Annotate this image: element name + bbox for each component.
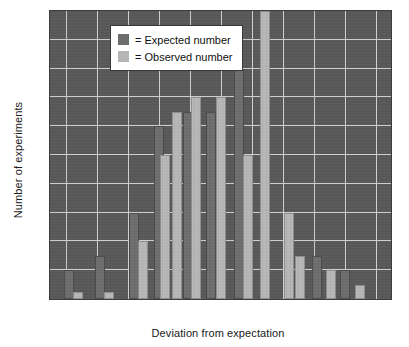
- bar-observed: [355, 285, 365, 299]
- legend-item-observed: = Observed number: [118, 48, 233, 65]
- x-tick-mark: [376, 299, 377, 300]
- x-tick-mark: [128, 299, 129, 300]
- y-tick-mark: [49, 125, 50, 126]
- bar-expected: [340, 270, 350, 299]
- bar-observed: [260, 11, 270, 299]
- bar-observed: [73, 292, 83, 299]
- legend-label-observed: = Observed number: [135, 51, 233, 63]
- x-tick-mark: [345, 299, 346, 300]
- y-tick-mark: [49, 298, 50, 299]
- x-tick-mark: [97, 299, 98, 300]
- x-tick-mark: [221, 299, 222, 300]
- legend-label-expected: = Expected number: [135, 34, 231, 46]
- chart-legend: = Expected number = Observed number: [110, 25, 243, 71]
- bar-expected: [312, 256, 322, 299]
- bar-observed: [191, 97, 201, 299]
- y-tick-mark: [49, 212, 50, 213]
- y-tick-mark: [49, 68, 50, 69]
- y-tick-mark: [49, 183, 50, 184]
- y-tick-mark: [49, 39, 50, 40]
- y-axis-title: Number of experiments: [12, 60, 24, 260]
- bar-observed: [326, 270, 336, 299]
- y-tick-mark: [49, 269, 50, 270]
- bar-observed: [138, 241, 148, 299]
- gridline-vertical: [66, 11, 67, 299]
- bar-observed: [284, 213, 294, 299]
- y-tick-mark: [49, 10, 50, 11]
- y-tick-mark: [49, 154, 50, 155]
- y-tick-mark: [49, 240, 50, 241]
- bar-observed: [295, 256, 305, 299]
- light-swatch-icon: [118, 51, 129, 62]
- x-tick-mark: [159, 299, 160, 300]
- plot-area: 02468101214161820 0−2.5−2.0−1.5−1.0−0.50…: [49, 10, 392, 300]
- x-tick-mark: [252, 299, 253, 300]
- gridline-vertical: [345, 11, 346, 299]
- x-tick-mark: [190, 299, 191, 300]
- x-tick-mark: [314, 299, 315, 300]
- bar-observed: [160, 155, 170, 299]
- chart-figure: Number of experiments Deviation from exp…: [0, 0, 409, 347]
- y-tick-mark: [49, 96, 50, 97]
- legend-item-expected: = Expected number: [118, 31, 233, 48]
- gridline-vertical: [376, 11, 377, 299]
- x-tick-mark: [283, 299, 284, 300]
- bar-observed: [216, 97, 226, 299]
- bar-observed: [172, 112, 182, 299]
- bar-observed: [104, 292, 114, 299]
- bar-observed: [243, 155, 253, 299]
- x-axis-title: Deviation from expectation: [48, 327, 388, 339]
- x-tick-mark: [66, 299, 67, 300]
- dark-swatch-icon: [118, 34, 129, 45]
